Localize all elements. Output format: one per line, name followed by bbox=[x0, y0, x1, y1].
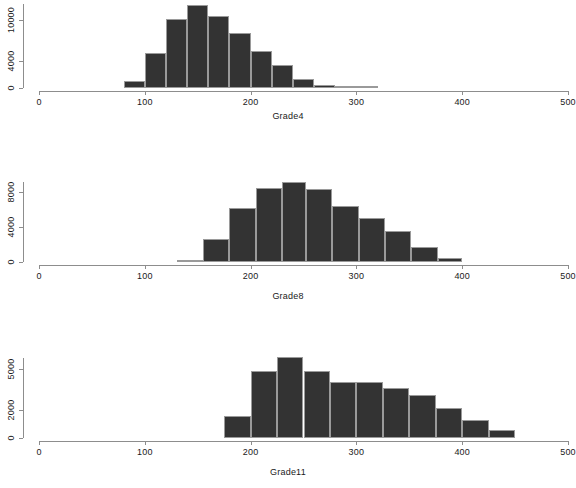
y-axis-tick-label: 0 bbox=[6, 85, 16, 90]
x-axis-title-grade8: Grade8 bbox=[0, 291, 576, 301]
y-axis-tick-label: 0 bbox=[6, 435, 16, 440]
plot-area-grade11 bbox=[39, 354, 568, 438]
histogram-bar bbox=[124, 81, 145, 88]
x-axis-tick bbox=[251, 91, 252, 95]
y-axis-tick bbox=[19, 410, 23, 411]
x-axis-tick-label: 200 bbox=[243, 447, 259, 457]
y-axis-tick-label: 2000 bbox=[6, 400, 16, 421]
x-axis-tick-label: 100 bbox=[137, 97, 153, 107]
histogram-bar bbox=[306, 189, 332, 263]
x-axis-title-grade11: Grade11 bbox=[0, 467, 576, 477]
histogram-bar bbox=[462, 420, 488, 438]
y-axis-tick bbox=[19, 227, 23, 228]
histogram-bar bbox=[385, 231, 411, 262]
histogram-bar bbox=[436, 408, 462, 438]
x-axis-tick-label: 100 bbox=[137, 447, 153, 457]
x-axis-tick bbox=[462, 265, 463, 269]
x-axis-tick-label: 0 bbox=[36, 447, 41, 457]
histogram-bar bbox=[224, 416, 250, 438]
x-axis-tick-label: 0 bbox=[36, 97, 41, 107]
x-axis-tick-label: 200 bbox=[243, 271, 259, 281]
histogram-bar bbox=[332, 206, 358, 262]
histogram-bar bbox=[166, 19, 187, 88]
histogram-bar bbox=[356, 86, 377, 88]
y-axis-tick bbox=[19, 438, 23, 439]
x-axis-tick-label: 200 bbox=[243, 97, 259, 107]
histogram-bar bbox=[438, 258, 462, 262]
plot-area-grade4 bbox=[39, 4, 568, 88]
histogram-bar bbox=[411, 247, 437, 262]
histogram-bar bbox=[489, 430, 515, 438]
y-axis-tick-label: 10000 bbox=[6, 7, 16, 33]
y-axis-tick bbox=[19, 20, 23, 21]
histogram-bar bbox=[409, 395, 435, 438]
x-axis-tick bbox=[39, 441, 40, 445]
histogram-bar bbox=[359, 218, 385, 262]
histogram-bar bbox=[304, 371, 330, 438]
x-axis-tick bbox=[462, 91, 463, 95]
histogram-bar bbox=[293, 79, 314, 88]
x-axis-tick-label: 500 bbox=[560, 97, 576, 107]
histogram-bar bbox=[314, 85, 335, 88]
histogram-bar bbox=[282, 182, 305, 263]
y-axis-tick-label: 4000 bbox=[6, 50, 16, 71]
x-axis-tick bbox=[462, 441, 463, 445]
y-axis-line-grade8 bbox=[23, 182, 24, 262]
histogram-bar bbox=[145, 53, 166, 88]
x-axis-title-grade4: Grade4 bbox=[0, 111, 576, 121]
x-axis-tick bbox=[39, 91, 40, 95]
x-axis-tick bbox=[251, 265, 252, 269]
plot-area-grade8 bbox=[39, 178, 568, 262]
x-axis-tick bbox=[145, 265, 146, 269]
y-axis-tick-label: 0 bbox=[6, 259, 16, 264]
x-axis-line-grade4 bbox=[39, 91, 568, 92]
y-axis-tick bbox=[19, 369, 23, 370]
x-axis-tick-label: 400 bbox=[454, 447, 470, 457]
histogram-bar bbox=[229, 33, 250, 88]
histogram-bar bbox=[335, 86, 356, 88]
y-axis-tick bbox=[19, 262, 23, 263]
y-axis-tick bbox=[19, 61, 23, 62]
x-axis-tick-label: 300 bbox=[349, 271, 365, 281]
x-axis-tick-label: 400 bbox=[454, 97, 470, 107]
x-axis-tick bbox=[356, 441, 357, 445]
histogram-figure: 0400010000 0100200300400500 Grade4 04000… bbox=[0, 0, 576, 488]
x-axis-tick-label: 300 bbox=[349, 447, 365, 457]
histogram-bar bbox=[277, 357, 303, 438]
y-axis-line-grade11 bbox=[23, 358, 24, 438]
x-axis-tick bbox=[356, 265, 357, 269]
y-axis-tick bbox=[19, 88, 23, 89]
histogram-bar bbox=[256, 188, 282, 262]
x-axis-tick-label: 400 bbox=[454, 271, 470, 281]
histogram-bar bbox=[272, 65, 293, 88]
x-axis-tick bbox=[568, 265, 569, 269]
y-axis-tick-label: 4000 bbox=[6, 217, 16, 238]
x-axis-tick bbox=[39, 265, 40, 269]
x-axis-tick bbox=[568, 441, 569, 445]
x-axis-tick bbox=[568, 91, 569, 95]
y-axis-line-grade4 bbox=[23, 4, 24, 88]
histogram-bar bbox=[383, 388, 409, 438]
histogram-bar bbox=[330, 382, 356, 438]
x-axis-tick-label: 0 bbox=[36, 271, 41, 281]
histogram-bar bbox=[356, 382, 382, 438]
x-axis-line-grade8 bbox=[39, 265, 568, 266]
x-axis-tick-label: 300 bbox=[349, 97, 365, 107]
histogram-bar bbox=[229, 208, 255, 262]
histogram-bar bbox=[203, 239, 229, 262]
x-axis-tick-label: 500 bbox=[560, 447, 576, 457]
y-axis-tick-label: 8000 bbox=[6, 182, 16, 203]
x-axis-tick bbox=[145, 441, 146, 445]
histogram-bar bbox=[251, 51, 272, 88]
x-axis-tick bbox=[251, 441, 252, 445]
histogram-bar bbox=[251, 371, 277, 438]
histogram-bar bbox=[187, 5, 208, 88]
x-axis-tick-label: 100 bbox=[137, 271, 153, 281]
y-axis-tick-label: 5000 bbox=[6, 359, 16, 380]
x-axis-tick-label: 500 bbox=[560, 271, 576, 281]
histogram-bar bbox=[208, 16, 229, 88]
x-axis-line-grade11 bbox=[39, 441, 568, 442]
x-axis-tick bbox=[356, 91, 357, 95]
histogram-bar bbox=[177, 260, 203, 262]
x-axis-tick bbox=[145, 91, 146, 95]
